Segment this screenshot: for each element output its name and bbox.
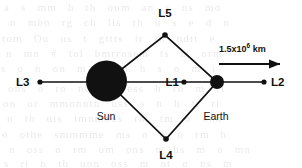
lagrange-point-dot-l1 bbox=[181, 79, 186, 84]
lagrange-point-dot-l4 bbox=[163, 136, 169, 142]
lagrange-label-l3: L3 bbox=[16, 76, 29, 88]
sun-label: Sun bbox=[97, 110, 116, 122]
distance-mantissa: 1.5x10 bbox=[219, 44, 247, 54]
lagrange-label-l2: L2 bbox=[271, 76, 284, 88]
distance-annotation-label: 1.5x106 km bbox=[219, 42, 266, 54]
lagrange-point-dot-l5 bbox=[162, 32, 168, 38]
distance-unit: km bbox=[250, 44, 266, 54]
lagrange-points-figure: a s mm h th onm an s ns mon mbo rg ch li… bbox=[0, 0, 302, 168]
lagrange-point-dot-l3 bbox=[37, 79, 42, 84]
earth-body bbox=[210, 75, 224, 89]
lagrange-label-l4: L4 bbox=[159, 149, 173, 161]
earth-label: Earth bbox=[203, 110, 228, 122]
sun-body bbox=[86, 61, 127, 102]
lagrange-label-l5: L5 bbox=[158, 7, 172, 19]
lagrange-label-l1: L1 bbox=[166, 76, 180, 88]
diagram-canvas: L3 L1 L2 L5 L4 Sun Earth 1.5x106 km bbox=[0, 0, 302, 168]
lagrange-point-dot-l2 bbox=[261, 79, 266, 84]
